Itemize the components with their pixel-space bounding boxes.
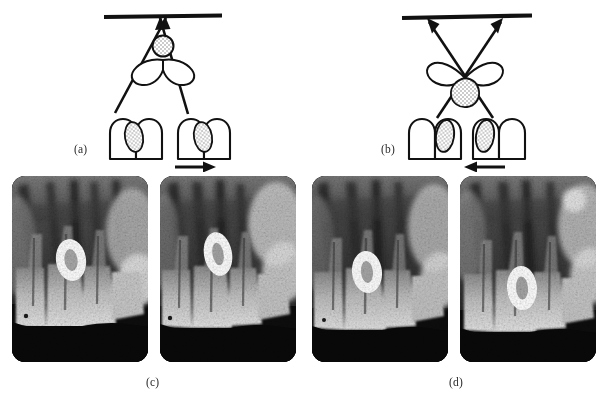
beam-arrowhead-b bbox=[427, 18, 503, 34]
film-plane-a bbox=[104, 16, 222, 18]
tooth-pair-left-b bbox=[409, 119, 461, 159]
panel-label-a: (a) bbox=[74, 143, 87, 155]
diagram-panel-a bbox=[0, 0, 306, 172]
overlap-marker-a bbox=[153, 36, 174, 57]
radiograph-1 bbox=[12, 176, 148, 362]
diagram-panel-b bbox=[306, 0, 612, 172]
tooth-pair-right-a bbox=[178, 119, 230, 159]
panel-label-d: (d) bbox=[449, 376, 463, 388]
radiograph-3 bbox=[312, 176, 448, 362]
radiograph-row bbox=[0, 176, 612, 372]
shift-arrow-right-a bbox=[175, 162, 216, 173]
radiograph-2 bbox=[160, 176, 296, 362]
panel-label-c: (c) bbox=[146, 376, 159, 388]
tooth-pair-right-b bbox=[473, 119, 525, 159]
radiograph-4 bbox=[460, 176, 596, 362]
overlap-marker-b bbox=[451, 78, 479, 107]
shift-arrow-left-b bbox=[464, 162, 505, 173]
film-plane-b bbox=[402, 16, 532, 19]
panel-label-b: (b) bbox=[381, 143, 395, 155]
figure-dental-radiography: (a) (b) bbox=[0, 0, 612, 399]
tooth-schematic-a bbox=[132, 59, 194, 85]
tooth-pair-left-a bbox=[110, 119, 162, 159]
